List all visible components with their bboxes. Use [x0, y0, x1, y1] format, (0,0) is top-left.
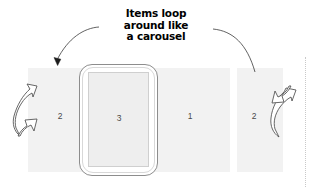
panel-left-2-label: 2	[53, 111, 67, 121]
caption-left-arrowhead-icon	[54, 58, 61, 66]
panel-right-1-label: 1	[183, 111, 197, 121]
panel-right-2-label: 2	[247, 111, 261, 121]
caption-right-curve-icon	[213, 29, 255, 72]
panel-center-3-label: 3	[111, 113, 127, 123]
caption-line-1: Items loop	[99, 8, 213, 20]
carousel-diagram: Items loop around like a carousel 2 1 2 …	[0, 0, 314, 189]
caption-text: Items loop around like a carousel	[99, 8, 213, 43]
page-margin-rule	[305, 57, 306, 187]
caption-left-curve-icon	[57, 27, 99, 60]
caption-line-3: a carousel	[99, 31, 213, 43]
